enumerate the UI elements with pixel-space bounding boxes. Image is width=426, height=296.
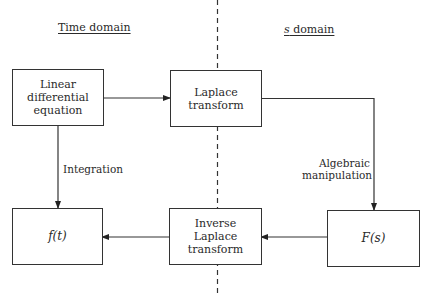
integration-label: Integration [63,163,123,175]
s-domain-heading: s domain [284,23,334,36]
box-f-of-t: f(t) [12,208,103,265]
box-inverse-laplace-transform: Inverse Laplace transform [169,208,262,265]
box-linear-differential-equation: Linear differential equation [12,69,104,126]
time-domain-heading: Time domain [58,21,131,34]
box-laplace-transform: Laplace transform [170,70,262,127]
algebraic-manipulation-label: Algebraic manipulation [302,157,370,181]
arrow-laplace-to-fs [262,99,374,211]
box-F-of-s: F(s) [327,210,420,267]
F-of-s-label: F(s) [362,232,386,245]
f-of-t-label: f(t) [48,230,67,243]
